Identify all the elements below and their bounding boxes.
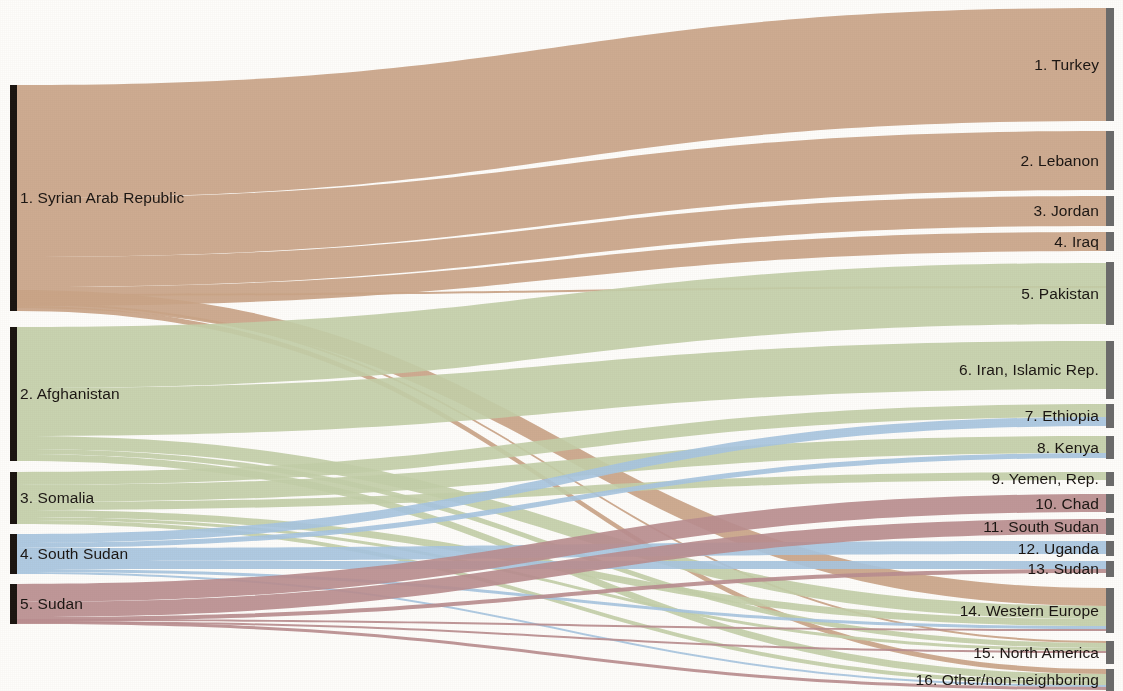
- source-label-south_sudan: 4. South Sudan: [20, 546, 128, 562]
- destination-node-south_sudan_d[interactable]: [1106, 518, 1114, 535]
- destination-label-uganda: 12. Uganda: [1018, 541, 1099, 557]
- destination-label-south_sudan_d: 11. South Sudan: [983, 519, 1099, 535]
- flow-ribbons: [17, 8, 1106, 690]
- destination-label-iraq: 4. Iraq: [1054, 234, 1099, 250]
- destination-node-jordan[interactable]: [1106, 196, 1114, 226]
- destination-node-north_america[interactable]: [1106, 641, 1114, 664]
- destination-node-turkey[interactable]: [1106, 8, 1114, 121]
- destination-node-bars: [1106, 8, 1114, 691]
- source-label-syria: 1. Syrian Arab Republic: [20, 190, 184, 206]
- sankey-canvas: [0, 0, 1123, 691]
- destination-label-north_america: 15. North America: [973, 645, 1099, 661]
- destination-label-kenya: 8. Kenya: [1037, 440, 1099, 456]
- source-label-afghanistan: 2. Afghanistan: [20, 386, 120, 402]
- destination-node-other[interactable]: [1106, 669, 1114, 691]
- destination-label-ethiopia: 7. Ethiopia: [1025, 408, 1099, 424]
- destination-label-jordan: 3. Jordan: [1033, 203, 1099, 219]
- source-node-south_sudan[interactable]: [10, 534, 17, 574]
- source-node-sudan[interactable]: [10, 584, 17, 624]
- destination-label-turkey: 1. Turkey: [1034, 57, 1099, 73]
- destination-label-pakistan: 5. Pakistan: [1021, 286, 1099, 302]
- destination-node-iraq[interactable]: [1106, 232, 1114, 251]
- destination-label-chad: 10. Chad: [1035, 496, 1099, 512]
- destination-node-chad[interactable]: [1106, 494, 1114, 513]
- destination-label-yemen: 9. Yemen, Rep.: [992, 471, 1099, 487]
- destination-node-ethiopia[interactable]: [1106, 404, 1114, 428]
- destination-node-pakistan[interactable]: [1106, 262, 1114, 325]
- destination-label-iran: 6. Iran, Islamic Rep.: [959, 362, 1099, 378]
- source-node-bars: [10, 85, 17, 624]
- source-node-syria[interactable]: [10, 85, 17, 311]
- sankey-diagram: 1. Syrian Arab Republic2. Afghanistan3. …: [0, 0, 1123, 691]
- destination-label-sudan_d: 13. Sudan: [1027, 561, 1099, 577]
- destination-node-uganda[interactable]: [1106, 541, 1114, 556]
- destination-node-sudan_d[interactable]: [1106, 561, 1114, 577]
- destination-label-other: 16. Other/non-neighboring: [916, 672, 1099, 688]
- source-node-afghanistan[interactable]: [10, 327, 17, 461]
- destination-label-western_europe: 14. Western Europe: [960, 603, 1099, 619]
- source-node-somalia[interactable]: [10, 472, 17, 524]
- source-label-somalia: 3. Somalia: [20, 490, 94, 506]
- destination-node-western_europe[interactable]: [1106, 588, 1114, 633]
- destination-node-lebanon[interactable]: [1106, 131, 1114, 190]
- destination-label-lebanon: 2. Lebanon: [1020, 153, 1099, 169]
- destination-node-yemen[interactable]: [1106, 472, 1114, 486]
- destination-node-iran[interactable]: [1106, 341, 1114, 399]
- destination-node-kenya[interactable]: [1106, 436, 1114, 459]
- source-label-sudan: 5. Sudan: [20, 596, 83, 612]
